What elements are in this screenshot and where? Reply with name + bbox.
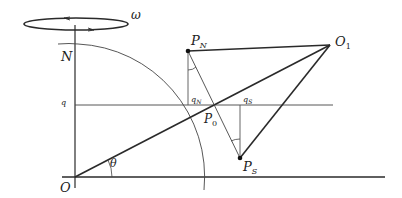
omega-label: ω [131,8,141,22]
line-PN-O1 [188,45,330,51]
qS-label: qS [243,95,252,105]
O-label: O [60,180,71,195]
rotation-ellipse [24,17,128,31]
P0-label: P0 [203,112,217,128]
angle-arc-PS [231,139,240,141]
point-PN [186,49,191,54]
qN-label: qN [191,95,202,105]
earth-rotation-geometry-diagram: ω N O q PN O1 qN qS P0 θ PS [0,0,402,198]
N-label: N [60,49,73,64]
line-PS-O1 [240,45,330,158]
theta-label: θ [110,157,117,170]
PS-label: PS [242,159,258,176]
point-PS [238,156,243,161]
angle-arc-PN [188,67,196,70]
earth-arc [58,44,205,191]
q-label: q [61,98,66,107]
O1-label: O1 [335,34,351,51]
PN-label: PN [190,33,208,50]
